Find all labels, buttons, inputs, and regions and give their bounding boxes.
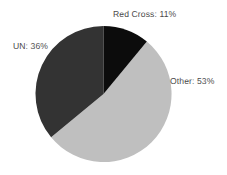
pie-label-un: UN: 36% bbox=[13, 41, 48, 51]
pie-chart: Red Cross: 11% UN: 36% Other: 53% bbox=[0, 0, 227, 175]
pie-chart-graphic bbox=[0, 0, 227, 175]
pie-label-other: Other: 53% bbox=[170, 76, 214, 86]
pie-slices bbox=[36, 26, 172, 162]
pie-label-red-cross: Red Cross: 11% bbox=[113, 9, 176, 19]
